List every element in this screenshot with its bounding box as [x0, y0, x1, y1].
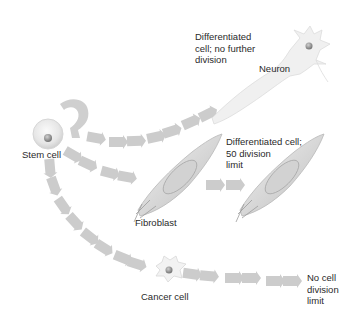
- cancer-cell-icon: [156, 256, 186, 282]
- cancer-description-line: division: [307, 284, 339, 296]
- cancer-cell-label: Cancer cell: [141, 291, 189, 303]
- arrow-stem-to-fibroblast: [62, 144, 138, 185]
- stem-cell-icon: [33, 119, 63, 149]
- cancer-description-line: limit: [307, 295, 339, 307]
- fibroblast-label: Fibroblast: [135, 217, 177, 229]
- fibroblast-description: Differentiated cell; 50 division limit: [226, 136, 302, 171]
- fibroblast-description-line: 50 division: [226, 148, 302, 160]
- cancer-description: No cell division limit: [307, 272, 339, 307]
- arrow-stem-to-neuron: [86, 103, 220, 149]
- neuron-description: Differentiated cell; no further division: [195, 31, 255, 66]
- fibroblast-description-line: limit: [226, 159, 302, 171]
- stem-cell-label: Stem cell: [22, 149, 61, 161]
- fibroblast-description-line: Differentiated cell;: [226, 136, 302, 148]
- self-renewal-arrow-icon: [60, 99, 88, 138]
- cancer-description-line: No cell: [307, 272, 339, 284]
- fibroblast-icon: [134, 134, 222, 222]
- arrow-fibroblast-division: [206, 178, 245, 192]
- neuron-label: Neuron: [259, 63, 290, 75]
- arrow-cancer-no-limit: [182, 266, 302, 288]
- neuron-description-line: Differentiated: [195, 31, 255, 43]
- neuron-description-line: cell; no further: [195, 43, 255, 55]
- neuron-description-line: division: [195, 54, 255, 66]
